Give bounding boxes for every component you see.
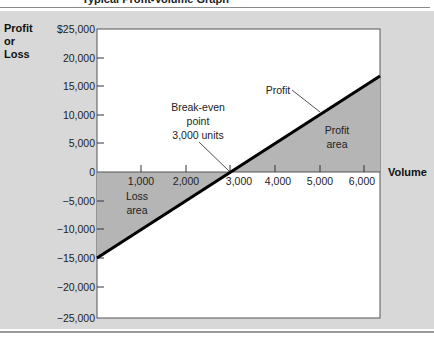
svg-text:−20,000: −20,000: [57, 281, 95, 293]
svg-text:−15,000: −15,000: [57, 252, 95, 264]
svg-text:5,000: 5,000: [69, 137, 95, 149]
profit-line-label: Profit: [266, 84, 291, 96]
svg-text:5,000: 5,000: [307, 175, 333, 187]
svg-text:3,000: 3,000: [226, 175, 252, 187]
svg-text:area: area: [126, 204, 147, 216]
svg-text:4,000: 4,000: [265, 175, 291, 187]
svg-text:Profit: Profit: [325, 124, 350, 136]
y-tick-labels: $25,000 20,000 15,000 10,000 5,000 0 −5,…: [57, 23, 95, 324]
svg-text:0: 0: [89, 166, 95, 178]
svg-text:Loss: Loss: [126, 190, 148, 202]
svg-text:−25,000: −25,000: [57, 312, 95, 324]
svg-text:1,000: 1,000: [128, 175, 154, 187]
svg-text:point: point: [187, 115, 210, 127]
svg-text:2,000: 2,000: [173, 175, 199, 187]
svg-text:Break-even: Break-even: [171, 101, 225, 113]
svg-text:$25,000: $25,000: [57, 23, 95, 35]
svg-text:area: area: [326, 138, 347, 150]
svg-text:−10,000: −10,000: [57, 223, 95, 235]
svg-text:10,000: 10,000: [63, 109, 95, 121]
svg-text:20,000: 20,000: [63, 52, 95, 64]
svg-text:3,000 units: 3,000 units: [172, 129, 223, 141]
profit-volume-chart: $25,000 20,000 15,000 10,000 5,000 0 −5,…: [0, 0, 434, 337]
svg-text:−5,000: −5,000: [63, 195, 96, 207]
svg-text:15,000: 15,000: [63, 80, 95, 92]
svg-text:6,000: 6,000: [349, 175, 375, 187]
